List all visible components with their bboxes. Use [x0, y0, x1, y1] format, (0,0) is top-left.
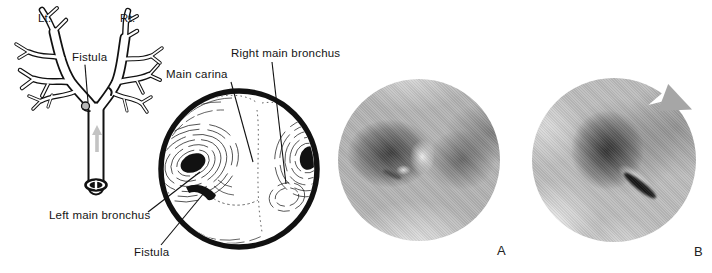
endoscopic-photo-a [338, 79, 500, 241]
photo-b-fistula-slit [621, 170, 658, 202]
illustration-fistula-label: Fistula [134, 246, 169, 258]
medical-figure: Lt. Rt. Fistula Main carina Right main b… [0, 0, 712, 273]
tree-left-side-label: Lt. [38, 12, 51, 24]
panel-label-a: A [497, 243, 506, 258]
bronchial-tree-diagram [16, 8, 162, 191]
tracheal-opening [86, 180, 107, 191]
endoscopic-illustration [135, 62, 349, 247]
tree-fistula-label: Fistula [72, 51, 107, 63]
left-main-bronchus-label: Left main bronchus [49, 209, 150, 221]
photo-a-highlight [396, 165, 411, 175]
photo-b-slit-highlight [613, 159, 659, 200]
main-carina-label: Main carina [166, 68, 228, 80]
panel-label-b: B [694, 244, 703, 259]
photo-a-fold-shadow [382, 168, 402, 181]
right-main-bronchus-label: Right main bronchus [231, 47, 340, 59]
tree-right-side-label: Rt. [120, 12, 135, 24]
